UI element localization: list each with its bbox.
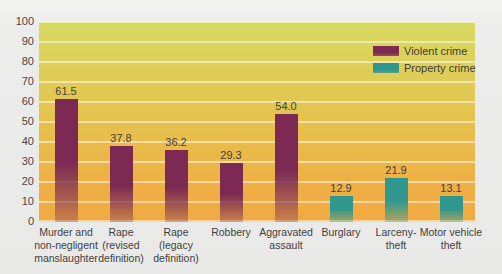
bar-violent-0 [55,99,78,222]
bar-property-6 [385,178,408,222]
bar-violent-2 [165,150,188,222]
bar-property-5 [330,196,353,222]
gridline-60 [39,101,475,103]
gridline-90 [39,41,475,43]
gridline-70 [39,81,475,83]
y-tick-label-50: 50 [0,115,34,127]
legend-label-violent-crime: Violent crime [404,45,467,57]
gridline-20 [39,181,475,183]
y-tick-label-10: 10 [0,195,34,207]
bar-value-label: 37.8 [99,132,143,144]
y-tick-label-40: 40 [0,135,34,147]
bar-property-7 [440,196,463,222]
legend-item-property-crime: Property crime [373,63,476,73]
bar-value-label: 13.1 [429,182,473,194]
bar-value-label: 36.2 [154,136,198,148]
legend-swatch-property-crime [373,63,399,73]
y-tick-label-60: 60 [0,95,34,107]
bar-value-label: 21.9 [374,164,418,176]
gridline-30 [39,161,475,163]
gridline-50 [39,121,475,123]
bar-violent-1 [110,146,133,222]
gridline-0 [39,220,475,222]
legend-swatch-violent-crime [373,46,399,56]
y-tick-label-100: 100 [0,15,34,27]
y-tick-label-20: 20 [0,175,34,187]
bar-value-label: 29.3 [209,149,253,161]
y-tick-label-90: 90 [0,35,34,47]
y-tick-label-80: 80 [0,55,34,67]
bar-value-label: 54.0 [264,100,308,112]
bar-violent-4 [275,114,298,222]
gridline-10 [39,201,475,203]
legend-item-violent-crime: Violent crime [373,46,476,56]
bar-value-label: 12.9 [319,182,363,194]
plot-area: Violent crime Property crime 61.537.836.… [39,22,475,222]
y-tick-label-70: 70 [0,75,34,87]
y-tick-label-30: 30 [0,155,34,167]
crime-rates-bar-chart: Violent crime Property crime 61.537.836.… [0,0,502,274]
gridline-100 [39,21,475,23]
legend: Violent crime Property crime [373,46,476,80]
legend-label-property-crime: Property crime [404,62,476,74]
x-category-label: Motor vehicle theft [404,226,498,252]
bar-violent-3 [220,163,243,222]
bar-value-label: 61.5 [44,85,88,97]
